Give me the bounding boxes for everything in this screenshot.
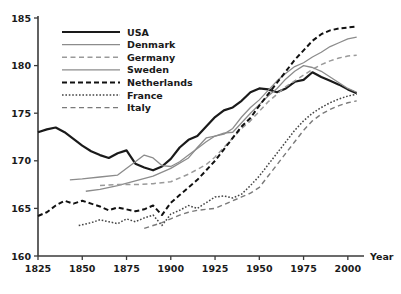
y-tick-label: 170 — [11, 155, 31, 166]
series-line-usa — [38, 72, 357, 170]
legend-label-sweden: Sweden — [127, 64, 169, 75]
x-tick-label: 1925 — [202, 263, 228, 274]
legend-label-france: France — [127, 90, 163, 101]
x-tick-label: 1875 — [113, 263, 139, 274]
y-tick-label: 165 — [11, 203, 31, 214]
chart-canvas: 1601651701751801851825185018751900192519… — [0, 0, 401, 294]
series-line-netherlands — [38, 27, 357, 216]
x-tick-label: 1900 — [158, 263, 185, 274]
legend-label-italy: Italy — [127, 102, 152, 113]
y-tick-label: 185 — [11, 13, 31, 24]
x-axis-name: Year — [369, 251, 394, 262]
legend-label-netherlands: Netherlands — [127, 77, 193, 88]
x-tick-label: 1950 — [246, 263, 273, 274]
x-tick-label: 2000 — [335, 263, 362, 274]
y-tick-label: 175 — [11, 108, 31, 119]
y-tick-label: 180 — [11, 60, 31, 71]
height-trend-line-chart: 1601651701751801851825185018751900192519… — [0, 0, 401, 294]
legend-label-germany: Germany — [127, 52, 176, 63]
legend-label-usa: USA — [127, 27, 150, 38]
legend-label-denmark: Denmark — [127, 39, 176, 50]
x-tick-label: 1825 — [25, 263, 51, 274]
x-tick-label: 1975 — [290, 263, 316, 274]
y-tick-label: 160 — [11, 251, 31, 262]
x-tick-label: 1850 — [69, 263, 96, 274]
